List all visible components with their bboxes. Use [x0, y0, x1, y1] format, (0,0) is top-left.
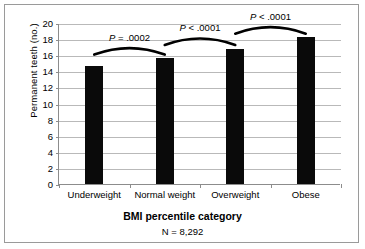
plot-area: 02468101214161820 UnderweightNormal weig… — [58, 24, 340, 185]
x-tick-mark — [271, 184, 272, 188]
y-tick-label: 0 — [48, 180, 53, 190]
significance-arc — [94, 48, 165, 55]
x-tick-mark — [130, 184, 131, 188]
p-value-label: P = .0002 — [109, 32, 150, 43]
bar — [297, 37, 315, 184]
x-tick-label: Underweight — [68, 189, 121, 200]
x-tick-mark — [200, 184, 201, 188]
y-tick-mark — [56, 169, 59, 170]
x-tick-mark — [341, 184, 342, 188]
y-tick-mark — [56, 88, 59, 89]
significance-arc — [235, 27, 306, 34]
y-tick-label: 18 — [42, 35, 53, 45]
y-tick-mark — [56, 137, 59, 138]
p-value-label: P < .0001 — [180, 22, 221, 33]
x-tick-label: Normal weight — [134, 189, 195, 200]
y-tick-mark — [56, 40, 59, 41]
y-tick-label: 20 — [42, 19, 53, 29]
y-tick-mark — [56, 105, 59, 106]
bar — [156, 58, 174, 184]
y-tick-label: 10 — [42, 100, 53, 110]
x-tick-mark — [59, 184, 60, 188]
x-tick-label: Overweight — [211, 189, 259, 200]
sample-size-label: N = 8,292 — [5, 226, 360, 237]
x-tick-label: Obese — [292, 189, 320, 200]
y-tick-mark — [56, 24, 59, 25]
p-value-label: P < .0001 — [250, 11, 291, 22]
y-tick-label: 12 — [42, 84, 53, 94]
y-tick-mark — [56, 153, 59, 154]
y-tick-label: 8 — [48, 116, 53, 126]
y-tick-label: 6 — [48, 132, 53, 142]
bar — [85, 66, 103, 184]
y-tick-mark — [56, 121, 59, 122]
y-tick-label: 4 — [48, 148, 53, 158]
bar — [226, 49, 244, 184]
figure-frame: Permanent teeth (no.) 02468101214161820 … — [4, 4, 359, 243]
y-tick-mark — [56, 72, 59, 73]
y-tick-label: 2 — [48, 164, 53, 174]
y-axis-title: Permanent teeth (no.) — [28, 1, 39, 141]
y-tick-label: 14 — [42, 68, 53, 78]
y-tick-mark — [56, 56, 59, 57]
y-tick-label: 16 — [42, 51, 53, 61]
x-axis-title: BMI percentile category — [5, 210, 360, 222]
